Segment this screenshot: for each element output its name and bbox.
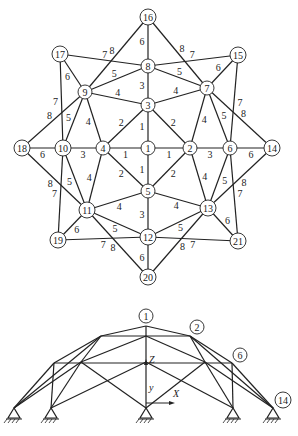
member-label: 7 xyxy=(237,97,242,108)
member-label: 6 xyxy=(140,252,145,263)
pin-support-icon xyxy=(223,408,241,423)
y-axis-label: y xyxy=(148,382,154,393)
plan-view-nodes: 168315122017915718104261411191321 xyxy=(14,9,280,285)
member-label: 8 xyxy=(111,242,116,253)
member-20-11 xyxy=(87,210,148,277)
member-label: 6 xyxy=(140,36,145,47)
node-label-13: 13 xyxy=(203,203,213,214)
elevation-member xyxy=(14,363,54,408)
member-label: 8 xyxy=(242,177,247,188)
x-axis-label: X xyxy=(172,388,180,399)
node-label-14: 14 xyxy=(267,143,277,154)
member-label: 5 xyxy=(177,66,182,77)
pin-support-icon xyxy=(41,408,59,423)
node-label-7: 7 xyxy=(205,83,210,94)
member-label: 7 xyxy=(190,239,195,250)
elevation-member xyxy=(51,363,54,408)
member-label: 7 xyxy=(101,239,106,250)
member-label: 3 xyxy=(140,80,145,91)
member-label: 7 xyxy=(190,49,195,60)
member-label: 4 xyxy=(87,172,92,183)
member-label: 7 xyxy=(53,96,58,107)
elevation-node-label-1: 1 xyxy=(144,311,149,322)
elevation-member xyxy=(146,326,190,336)
member-label: 3 xyxy=(81,149,86,160)
member-label: 1 xyxy=(140,164,145,175)
member-label: 5 xyxy=(67,176,72,187)
node-label-21: 21 xyxy=(233,236,243,247)
coordinate-axes: ZyX xyxy=(144,354,180,405)
node-label-15: 15 xyxy=(233,50,243,61)
elevation-member xyxy=(190,336,232,363)
elevation-member xyxy=(54,336,101,363)
pin-support-icon xyxy=(136,408,154,423)
member-label: 5 xyxy=(66,112,71,123)
node-label-3: 3 xyxy=(146,100,151,111)
member-label: 7 xyxy=(102,49,107,60)
member-label: 8 xyxy=(48,178,53,189)
member-label: 6 xyxy=(74,224,79,235)
node-label-16: 16 xyxy=(143,12,153,23)
node-label-10: 10 xyxy=(58,143,68,154)
node-label-1: 1 xyxy=(146,143,151,154)
node-label-18: 18 xyxy=(17,143,27,154)
member-label: 8 xyxy=(241,108,246,119)
member-label: 3 xyxy=(208,149,213,160)
node-label-17: 17 xyxy=(55,49,65,60)
member-label: 6 xyxy=(65,71,70,82)
member-label: 4 xyxy=(202,171,207,182)
node-label-4: 4 xyxy=(101,143,106,154)
node-label-19: 19 xyxy=(53,235,63,246)
elevation-member xyxy=(232,363,233,408)
member-label: 5 xyxy=(222,175,227,186)
elevation-member xyxy=(190,336,273,408)
member-label: 5 xyxy=(178,222,183,233)
member-label: 6 xyxy=(249,149,254,160)
elevation-member xyxy=(101,326,146,336)
elevation-member xyxy=(205,362,273,408)
elevation-member xyxy=(146,362,205,408)
member-label: 4 xyxy=(115,87,120,98)
elevation-view: 12614ZyX xyxy=(4,309,291,423)
member-label: 1 xyxy=(140,121,145,132)
elevation-member xyxy=(146,362,233,408)
member-label: 7 xyxy=(52,188,57,199)
member-label: 5 xyxy=(222,110,227,121)
member-label: 4 xyxy=(202,114,207,125)
pin-support-icon xyxy=(263,408,281,423)
node-label-20: 20 xyxy=(143,272,153,283)
member-label: 1 xyxy=(167,149,172,160)
dome-truss-diagram: 6311366311362222444444445555555566667777… xyxy=(0,0,298,436)
node-label-5: 5 xyxy=(146,186,151,197)
pin-support-icon xyxy=(4,408,22,423)
member-label: 4 xyxy=(174,200,179,211)
member-17-10 xyxy=(60,54,63,148)
member-label: 2 xyxy=(119,117,124,128)
member-label: 2 xyxy=(171,117,176,128)
node-label-11: 11 xyxy=(82,205,92,216)
member-label: 3 xyxy=(140,209,145,220)
member-19-10 xyxy=(58,148,63,240)
member-label: 4 xyxy=(173,85,178,96)
node-label-8: 8 xyxy=(146,61,151,72)
z-axis-label: Z xyxy=(149,354,155,365)
node-label-6: 6 xyxy=(228,143,233,154)
member-3-2 xyxy=(148,105,190,148)
elevation-member xyxy=(81,362,146,408)
elevation-node-label-14: 14 xyxy=(278,395,288,406)
member-label: 4 xyxy=(86,116,91,127)
member-label: 1 xyxy=(123,149,128,160)
member-label: 8 xyxy=(180,241,185,252)
elevation-member xyxy=(51,362,146,408)
member-label: 6 xyxy=(225,215,230,226)
member-label: 8 xyxy=(180,43,185,54)
node-label-9: 9 xyxy=(83,87,88,98)
member-label: 5 xyxy=(112,68,117,79)
member-label: 5 xyxy=(113,223,118,234)
member-label: 2 xyxy=(171,168,176,179)
member-label: 2 xyxy=(119,168,124,179)
elevation-member xyxy=(14,362,81,408)
member-18-11 xyxy=(22,148,87,210)
elevation-node-label-6: 6 xyxy=(238,350,243,361)
member-label: 6 xyxy=(40,149,45,160)
